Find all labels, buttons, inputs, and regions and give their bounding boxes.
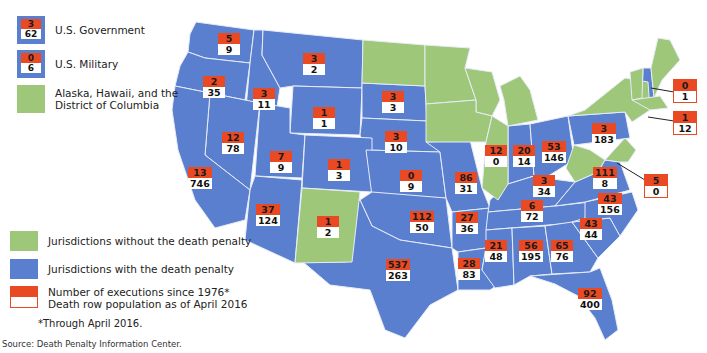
state-tag-co: 13 [328,159,350,181]
without-penalty-label: Jurisdictions without the death penalty [48,235,251,247]
state-tag-in: 2014 [513,145,535,167]
us-government-death-row: 62 [21,29,41,39]
state-tag-nc: 43156 [598,193,622,215]
state-tag-sd: 33 [382,91,404,113]
legend-with-death-penalty: Jurisdictions with the death penalty [10,259,234,279]
state-tag-il: 120 [485,145,507,167]
state-tag-va: 1118 [593,167,617,189]
state-tag-mo: 8631 [455,172,477,194]
legend-ak-hi-dc: Alaska, Hawaii, and the District of Colu… [17,85,178,113]
us-military-swatch: 0 6 [17,50,45,78]
state-tag-mt: 32 [303,53,325,75]
legend-box-key: Number of executions since 1976* Death r… [10,286,248,310]
state-tag-ok: 11250 [410,211,434,233]
state-tag-ne: 310 [385,131,407,153]
state-tag-ca: 13746 [188,167,212,189]
box-key-swatch [10,286,38,308]
without-penalty-swatch [10,231,38,251]
state-tag-pa: 3183 [592,123,616,145]
state-vt [630,68,643,100]
ak-hi-dc-swatch [17,85,45,113]
with-penalty-swatch [10,259,38,279]
state-tag-oh: 53146 [542,141,566,163]
state-tag-ks: 09 [400,170,422,192]
state-tag-de: 50 [644,174,668,198]
state-tag-la: 2883 [458,258,480,280]
us-military-executions: 0 [21,53,41,63]
state-tag-ar: 2736 [456,212,478,234]
with-penalty-label: Jurisdictions with the death penalty [48,263,234,275]
state-tag-fl: 92400 [578,288,602,310]
us-government-swatch: 3 62 [17,16,45,44]
us-military-death-row: 6 [21,63,41,73]
source-note: Source: Death Penalty Information Center… [2,339,182,349]
us-military-label: U.S. Military [55,58,118,70]
ak-hi-dc-label: Alaska, Hawaii, and the District of Colu… [55,87,178,111]
footnote: *Through April 2016. [38,318,142,329]
state-mi [500,76,538,126]
state-tag-nv: 1278 [222,132,244,154]
state-tag-ky: 334 [533,175,555,197]
legend-us-government: 3 62 U.S. Government [17,16,145,44]
state-tag-wy: 11 [313,107,335,129]
us-government-label: U.S. Government [55,24,145,36]
state-tag-tn: 672 [521,200,543,222]
state-tag-tx: 537263 [386,259,410,281]
state-tag-wa: 59 [218,33,240,55]
leader-line-ct [648,117,674,121]
legend-without-death-penalty: Jurisdictions without the death penalty [10,231,251,251]
state-tag-ut: 79 [270,151,292,173]
box-key-label: Number of executions since 1976* Death r… [48,286,248,310]
state-tag-or: 235 [203,76,225,98]
state-tag-nh: 01 [673,79,697,103]
state-fl [530,268,618,340]
state-nd [362,40,425,86]
state-tag-az: 37124 [256,204,280,226]
state-tag-ms: 2148 [485,240,507,262]
legend-us-military: 0 6 U.S. Military [17,50,118,78]
state-tag-ct: 112 [673,111,697,135]
state-tag-nm: 12 [317,216,339,238]
state-tag-ga: 6576 [551,240,573,262]
us-government-executions: 3 [21,19,41,29]
state-tag-al: 56195 [519,240,543,262]
state-tag-id: 311 [253,88,275,110]
state-tag-sc: 4344 [580,218,602,240]
